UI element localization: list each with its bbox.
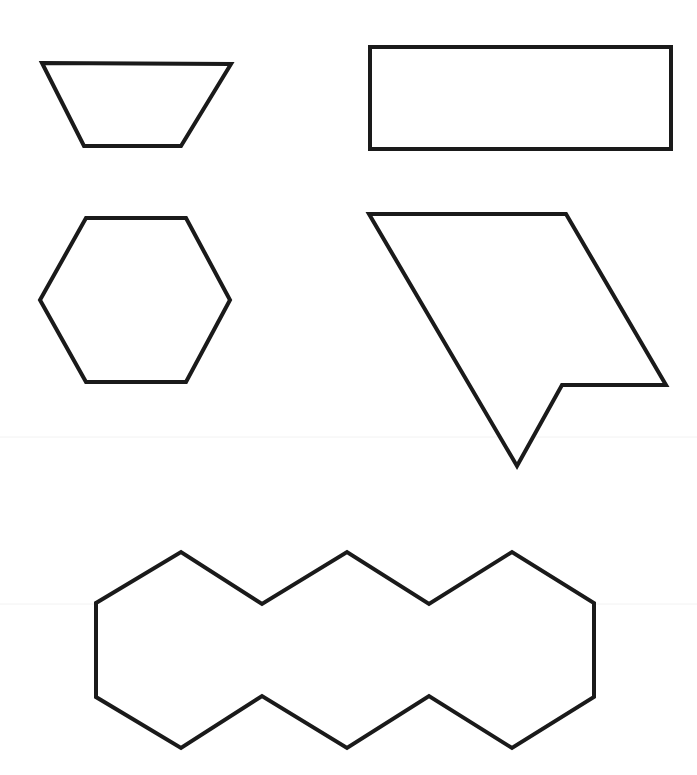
shape-worksheet-canvas bbox=[0, 0, 697, 775]
zigzag-polygon-shape[interactable] bbox=[96, 552, 594, 748]
shapes-svg-canvas bbox=[0, 0, 697, 775]
rectangle-shape[interactable] bbox=[370, 47, 671, 149]
